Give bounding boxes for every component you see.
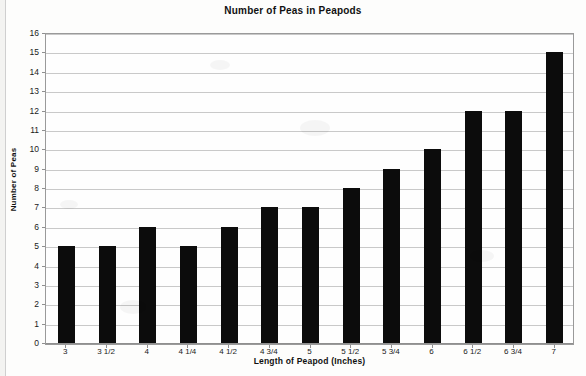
- y-tick-label: 16: [5, 29, 39, 38]
- chart-title: Number of Peas in Peapods: [0, 5, 586, 16]
- bar: [99, 246, 116, 343]
- gridline: [46, 189, 573, 190]
- x-tick-mark: [554, 345, 555, 348]
- y-tick-mark: [42, 130, 45, 131]
- x-tick-mark: [147, 345, 148, 348]
- y-tick-mark: [42, 266, 45, 267]
- x-tick-mark: [472, 345, 473, 348]
- bar: [261, 207, 278, 343]
- scan-noise: [210, 60, 230, 70]
- y-tick-label: 10: [5, 145, 39, 154]
- gridline: [46, 150, 573, 151]
- x-tick-mark: [350, 345, 351, 348]
- y-tick-mark: [42, 149, 45, 150]
- y-tick-label: 9: [5, 165, 39, 174]
- scan-noise: [60, 200, 78, 209]
- x-tick-mark: [65, 345, 66, 348]
- x-tick-label: 4 3/4: [247, 347, 291, 356]
- gridline: [46, 34, 573, 35]
- x-tick-label: 3 1/2: [84, 347, 128, 356]
- x-tick-mark: [187, 345, 188, 348]
- bar: [424, 149, 441, 343]
- scan-noise: [300, 120, 330, 136]
- gridline: [46, 170, 573, 171]
- x-tick-label: 6 3/4: [491, 347, 535, 356]
- bar: [465, 111, 482, 344]
- bar: [58, 246, 75, 343]
- y-tick-mark: [42, 169, 45, 170]
- bar: [139, 227, 156, 343]
- y-tick-label: 0: [5, 339, 39, 348]
- y-tick-mark: [42, 246, 45, 247]
- gridline: [46, 73, 573, 74]
- x-tick-mark: [106, 345, 107, 348]
- plot-area: [45, 33, 574, 345]
- x-tick-mark: [513, 345, 514, 348]
- x-tick-mark: [432, 345, 433, 348]
- y-tick-mark: [42, 91, 45, 92]
- y-tick-label: 7: [5, 203, 39, 212]
- x-tick-mark: [391, 345, 392, 348]
- bar: [221, 227, 238, 343]
- y-tick-mark: [42, 207, 45, 208]
- bar: [302, 207, 319, 343]
- y-tick-label: 12: [5, 107, 39, 116]
- y-tick-mark: [42, 227, 45, 228]
- y-tick-mark: [42, 343, 45, 344]
- y-tick-label: 2: [5, 300, 39, 309]
- y-tick-label: 5: [5, 242, 39, 251]
- x-tick-label: 5 3/4: [369, 347, 413, 356]
- y-tick-mark: [42, 111, 45, 112]
- gridline: [46, 53, 573, 54]
- chart-screenshot: Number of Peas in Peapods Number of Peas…: [0, 0, 586, 376]
- y-tick-mark: [42, 285, 45, 286]
- x-tick-label: 6 1/2: [450, 347, 494, 356]
- x-tick-label: 7: [532, 347, 576, 356]
- y-tick-label: 3: [5, 281, 39, 290]
- y-tick-mark: [42, 52, 45, 53]
- x-tick-label: 4: [125, 347, 169, 356]
- y-tick-mark: [42, 304, 45, 305]
- x-tick-mark: [310, 345, 311, 348]
- y-tick-mark: [42, 324, 45, 325]
- y-tick-mark: [42, 33, 45, 34]
- x-tick-mark: [228, 345, 229, 348]
- scan-noise: [470, 250, 494, 262]
- x-tick-label: 5: [288, 347, 332, 356]
- x-axis-title: Length of Peapod (Inches): [45, 356, 574, 366]
- y-tick-label: 4: [5, 262, 39, 271]
- bar: [505, 111, 522, 344]
- bar: [546, 52, 563, 343]
- y-tick-mark: [42, 72, 45, 73]
- y-tick-label: 11: [5, 126, 39, 135]
- bar: [383, 169, 400, 343]
- x-tick-label: 3: [43, 347, 87, 356]
- y-tick-label: 1: [5, 320, 39, 329]
- y-tick-label: 15: [5, 48, 39, 57]
- y-tick-label: 6: [5, 223, 39, 232]
- x-tick-label: 5 1/2: [328, 347, 372, 356]
- x-tick-label: 6: [410, 347, 454, 356]
- x-tick-label: 4 1/4: [165, 347, 209, 356]
- y-tick-mark: [42, 188, 45, 189]
- gridline: [46, 92, 573, 93]
- bar: [180, 246, 197, 343]
- x-axis-line: [46, 343, 573, 344]
- x-tick-mark: [269, 345, 270, 348]
- bar: [343, 188, 360, 343]
- x-tick-label: 4 1/2: [206, 347, 250, 356]
- y-tick-label: 13: [5, 87, 39, 96]
- y-tick-label: 8: [5, 184, 39, 193]
- gridline: [46, 112, 573, 113]
- scan-noise: [120, 300, 146, 314]
- y-tick-label: 14: [5, 68, 39, 77]
